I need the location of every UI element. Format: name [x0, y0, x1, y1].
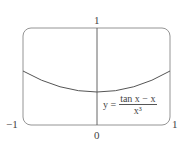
equation-lhs: y =	[103, 99, 116, 110]
y-tick-1: 1	[94, 15, 100, 26]
equation-label: y = tan x − x x³	[103, 93, 157, 116]
equation-numerator: tan x − x	[119, 93, 156, 105]
equation-denominator: x³	[134, 105, 142, 116]
x-tick-1: 1	[172, 119, 178, 130]
equation-fraction: tan x − x x³	[119, 93, 156, 116]
curve	[23, 71, 170, 92]
x-tick-0: 0	[94, 130, 100, 141]
x-tick-neg1: −1	[6, 119, 18, 130]
plot-area	[0, 0, 184, 147]
